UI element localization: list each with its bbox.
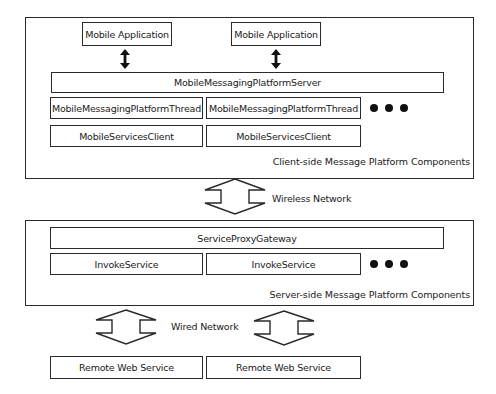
invoke-service-label-1: InvokeService (95, 259, 159, 270)
mobile-services-client-box-2: MobileServicesClient (206, 125, 361, 147)
mobile-messaging-platform-thread-label-2: MobileMessagingPlatformThread (209, 103, 358, 114)
ellipsis-dot (370, 260, 378, 268)
wireless-network-label: Wireless Network (272, 193, 351, 204)
wired-network-arrow-icon-2 (253, 310, 315, 346)
invoke-service-box-1: InvokeService (50, 253, 203, 275)
bidirectional-arrow-icon-2 (271, 49, 281, 69)
wired-network-label: Wired Network (171, 321, 238, 332)
wired-network-arrow-icon-1 (95, 309, 157, 345)
mobile-messaging-platform-server-box: MobileMessagingPlatformServer (51, 72, 444, 93)
service-proxy-gateway-label: ServiceProxyGateway (197, 233, 296, 244)
server-side-group-label: Server-side Message Platform Components (270, 289, 470, 300)
mobile-messaging-platform-thread-box-2: MobileMessagingPlatformThread (206, 97, 361, 119)
remote-web-service-label-1: Remote Web Service (79, 362, 174, 373)
invoke-service-label-2: InvokeService (252, 259, 316, 270)
client-side-group-label: Client-side Message Platform Components (273, 156, 470, 167)
service-proxy-gateway-box: ServiceProxyGateway (50, 227, 444, 249)
more-threads-ellipsis-icon (370, 104, 408, 112)
mobile-services-client-label-1: MobileServicesClient (79, 131, 174, 142)
mobile-services-client-label-2: MobileServicesClient (236, 131, 331, 142)
invoke-service-box-2: InvokeService (206, 253, 361, 275)
remote-web-service-box-2: Remote Web Service (206, 356, 361, 379)
mobile-application-label-1: Mobile Application (85, 29, 169, 40)
mobile-services-client-box-1: MobileServicesClient (50, 125, 203, 147)
ellipsis-dot (385, 260, 393, 268)
mobile-messaging-platform-thread-label-1: MobileMessagingPlatformThread (52, 103, 201, 114)
mobile-application-box-2: Mobile Application (231, 22, 321, 46)
ellipsis-dot (385, 104, 393, 112)
mobile-application-label-2: Mobile Application (234, 29, 318, 40)
remote-web-service-label-2: Remote Web Service (236, 362, 331, 373)
mobile-messaging-platform-thread-box-1: MobileMessagingPlatformThread (50, 97, 203, 119)
remote-web-service-box-1: Remote Web Service (50, 356, 203, 379)
bidirectional-arrow-icon-1 (120, 49, 130, 69)
ellipsis-dot (400, 104, 408, 112)
ellipsis-dot (400, 260, 408, 268)
mobile-application-box-1: Mobile Application (82, 22, 172, 46)
wireless-network-arrow-icon (204, 178, 266, 215)
ellipsis-dot (370, 104, 378, 112)
mobile-messaging-platform-server-label: MobileMessagingPlatformServer (174, 77, 321, 88)
more-services-ellipsis-icon (370, 260, 408, 268)
